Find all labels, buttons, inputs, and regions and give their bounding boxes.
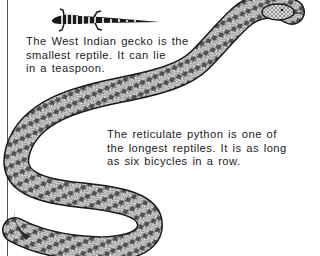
gecko-caption: The West Indian gecko is the smallest re… — [26, 35, 189, 76]
python-caption-line: The reticulate python is one of — [107, 128, 287, 142]
gecko-illustration — [52, 9, 160, 31]
python-caption-line: as six bicycles in a row. — [107, 155, 287, 169]
gecko-caption-line: in a teaspoon. — [26, 62, 189, 76]
gecko-caption-line: smallest reptile. It can lie — [26, 49, 189, 63]
python-caption-line: the longest reptiles. It is as long — [107, 142, 287, 156]
gecko-caption-line: The West Indian gecko is the — [26, 35, 189, 49]
python-caption: The reticulate python is one of the long… — [107, 128, 287, 169]
